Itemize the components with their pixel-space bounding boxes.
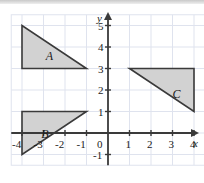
x-tick-label: -2 [55,139,64,150]
triangle-label-b: B [41,128,48,140]
x-axis-label: x [193,138,198,149]
y-tick-label: 1 [98,107,104,118]
x-tick-label: -1 [77,139,86,150]
x-tick-label: -3 [34,139,43,150]
x-tick-label: 3 [169,139,175,150]
y-axis-arrow [104,12,112,20]
triangle-label-a: A [46,50,53,62]
x-tick-label: -4 [12,139,21,150]
y-tick-label: 2 [98,85,104,96]
triangle-label-c: C [173,88,181,100]
y-tick-label: -1 [93,150,102,161]
figure-root: -4-3-2-1123454321-10xyABC [0,0,204,183]
y-tick-label: 3 [98,64,104,75]
x-tick-label: 1 [126,139,132,150]
x-tick-label: 2 [147,139,153,150]
origin-label: 0 [97,139,103,150]
x-axis-arrow [191,129,199,137]
y-tick-label: 4 [98,42,104,53]
y-axis-label: y [97,13,102,24]
